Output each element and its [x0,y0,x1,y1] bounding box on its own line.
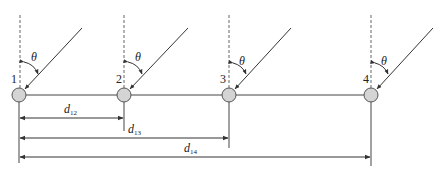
sensor-node-4: θ 4 [363,15,433,102]
sensor-node-2: θ 2 [116,15,188,102]
theta-label: θ [135,50,141,64]
node-circle [117,88,131,102]
node-circle [12,88,26,102]
dimension-d14: d14 [20,141,370,157]
node-label: 2 [116,72,122,86]
theta-label: θ [239,54,245,68]
sensor-node-1: θ 1 [11,15,82,102]
sensor-node-3: θ 3 [220,15,291,102]
dimension-label: d14 [184,141,198,156]
node-label: 1 [11,72,17,86]
node-circle [222,88,236,102]
node-label: 3 [220,72,226,86]
theta-label: θ [31,50,37,64]
dimension-label: d12 [64,102,78,117]
dimension-d12: d12 [20,102,123,118]
array-geometry-diagram: θ 1 θ 2 θ 3 θ 4 d12 d13 [0,0,446,174]
dimension-label: d13 [128,122,142,137]
node-label: 4 [363,72,369,86]
node-circle [364,88,378,102]
theta-label: θ [381,54,387,68]
